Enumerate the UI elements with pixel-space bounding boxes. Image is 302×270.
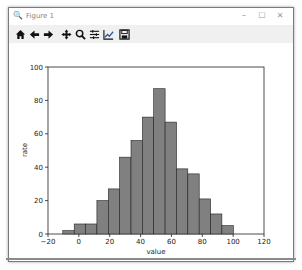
histogram-bar [165, 122, 176, 234]
histogram-bar [63, 231, 74, 234]
x-axis-label: value [146, 248, 165, 256]
histogram-bar [188, 174, 199, 234]
histogram-bar [131, 140, 142, 234]
x-tick-label: 0 [77, 238, 81, 246]
y-tick-label: 20 [34, 197, 43, 205]
histogram-bar [222, 226, 233, 234]
x-axis-ticks: −20020406080100120 [41, 234, 271, 246]
histogram-bar [85, 224, 96, 234]
y-tick-label: 60 [34, 130, 43, 138]
x-tick-label: 20 [105, 238, 114, 246]
x-tick-label: 40 [136, 238, 145, 246]
histogram-bar [108, 189, 119, 234]
histogram-bar [74, 224, 85, 234]
histogram-bar [142, 117, 153, 234]
y-tick-label: 100 [30, 64, 43, 72]
histogram-bar [211, 214, 222, 234]
y-tick-label: 40 [34, 164, 43, 172]
x-tick-label: −20 [41, 238, 56, 246]
histogram-bar [177, 169, 188, 234]
y-axis-ticks: 020406080100 [30, 64, 48, 239]
bars [63, 89, 233, 234]
x-tick-label: 120 [257, 238, 270, 246]
histogram-bar [199, 199, 210, 234]
y-tick-label: 0 [39, 231, 43, 239]
histogram-bar [154, 89, 165, 234]
x-tick-label: 60 [167, 238, 176, 246]
y-axis-label: rate [21, 143, 29, 157]
x-tick-label: 80 [198, 238, 207, 246]
y-tick-label: 80 [34, 97, 43, 105]
histogram-bar [97, 201, 108, 234]
window-bottom-border [6, 258, 296, 260]
histogram-bar [120, 157, 131, 234]
x-tick-label: 100 [226, 238, 239, 246]
histogram-chart: −20020406080100120 020406080100 value ra… [0, 0, 302, 270]
